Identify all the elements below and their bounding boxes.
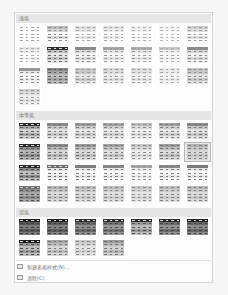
thumb-body-row: [159, 178, 180, 181]
table-style-medium-4[interactable]: [101, 122, 126, 140]
table-style-light-22[interactable]: [17, 88, 42, 106]
table-style-light-1[interactable]: [17, 25, 42, 43]
thumb-body-row: [75, 199, 96, 202]
table-style-dark-6[interactable]: [157, 218, 182, 236]
thumb-body-row: [47, 178, 68, 181]
thumb-body-row: [131, 178, 152, 181]
thumb-body-row: [19, 199, 40, 202]
table-style-light-15[interactable]: [17, 67, 42, 85]
table-style-dark-5[interactable]: [129, 218, 154, 236]
thumb-body-row: [75, 81, 96, 84]
table-style-medium-20[interactable]: [157, 164, 182, 182]
table-style-light-11[interactable]: [101, 46, 126, 64]
table-style-medium-28[interactable]: [185, 185, 210, 203]
table-style-medium-19[interactable]: [129, 164, 154, 182]
table-style-medium-3[interactable]: [73, 122, 98, 140]
thumb-body-row: [131, 39, 152, 42]
table-style-dark-1[interactable]: [17, 218, 42, 236]
table-style-medium-6[interactable]: [157, 122, 182, 140]
dark-styles-grid: [17, 218, 210, 257]
thumb-body-row: [187, 60, 208, 63]
table-style-medium-7[interactable]: [185, 122, 210, 140]
table-style-light-19[interactable]: [129, 67, 154, 85]
thumb-body-row: [19, 253, 40, 256]
thumb-body-row: [19, 157, 40, 160]
clear-menu-item[interactable]: 清除(C): [17, 272, 212, 282]
table-style-light-2[interactable]: [45, 25, 70, 43]
thumb-body-row: [19, 178, 40, 181]
table-style-light-17[interactable]: [73, 67, 98, 85]
table-style-medium-12[interactable]: [129, 143, 154, 161]
table-style-medium-10[interactable]: [73, 143, 98, 161]
thumb-body-row: [19, 136, 40, 139]
thumb-body-row: [75, 136, 96, 139]
table-style-medium-24[interactable]: [73, 185, 98, 203]
thumb-body-row: [103, 232, 124, 235]
table-style-medium-8[interactable]: [17, 143, 42, 161]
table-style-light-8[interactable]: [17, 46, 42, 64]
thumb-body-row: [187, 39, 208, 42]
table-style-medium-15[interactable]: [17, 164, 42, 182]
table-style-dark-2[interactable]: [45, 218, 70, 236]
thumb-body-row: [159, 39, 180, 42]
light-styles-grid: [17, 25, 210, 106]
thumb-body-row: [131, 199, 152, 202]
thumb-body-row: [47, 81, 68, 84]
thumb-body-row: [47, 157, 68, 160]
table-style-medium-22[interactable]: [17, 185, 42, 203]
table-style-light-18[interactable]: [101, 67, 126, 85]
table-style-dark-9[interactable]: [45, 239, 70, 257]
table-style-dark-4[interactable]: [101, 218, 126, 236]
table-style-dark-3[interactable]: [73, 218, 98, 236]
table-style-light-10[interactable]: [73, 46, 98, 64]
table-style-medium-18[interactable]: [101, 164, 126, 182]
table-style-light-16[interactable]: [45, 67, 70, 85]
thumb-body-row: [47, 199, 68, 202]
thumb-body-row: [131, 232, 152, 235]
table-style-light-9[interactable]: [45, 46, 70, 64]
table-style-medium-13[interactable]: [157, 143, 182, 161]
table-style-light-20[interactable]: [157, 67, 182, 85]
table-style-medium-17[interactable]: [73, 164, 98, 182]
section-header-light: 浅色: [16, 14, 211, 23]
thumb-body-row: [19, 81, 40, 84]
new-table-style-menu-item[interactable]: 新建表格样式(N)...: [17, 261, 212, 271]
table-style-light-5[interactable]: [129, 25, 154, 43]
table-style-light-4[interactable]: [101, 25, 126, 43]
thumb-body-row: [103, 157, 124, 160]
table-style-light-13[interactable]: [157, 46, 182, 64]
thumb-body-row: [47, 232, 68, 235]
table-style-medium-16[interactable]: [45, 164, 70, 182]
new-table-style-label: 新建表格样式(N)...: [27, 263, 69, 270]
thumb-body-row: [75, 253, 96, 256]
table-style-dark-10[interactable]: [73, 239, 98, 257]
table-style-light-12[interactable]: [129, 46, 154, 64]
table-style-light-3[interactable]: [73, 25, 98, 43]
table-style-medium-1[interactable]: [17, 122, 42, 140]
thumb-body-row: [103, 253, 124, 256]
table-style-medium-5[interactable]: [129, 122, 154, 140]
thumb-body-row: [19, 60, 40, 63]
thumb-body-row: [19, 232, 40, 235]
thumb-body-row: [159, 232, 180, 235]
table-style-medium-11[interactable]: [101, 143, 126, 161]
table-style-medium-14[interactable]: [185, 143, 210, 161]
thumb-body-row: [187, 178, 208, 181]
table-style-dark-8[interactable]: [17, 239, 42, 257]
thumb-body-row: [131, 60, 152, 63]
thumb-body-row: [103, 199, 124, 202]
table-style-dark-11[interactable]: [101, 239, 126, 257]
table-style-medium-21[interactable]: [185, 164, 210, 182]
table-style-light-21[interactable]: [185, 67, 210, 85]
table-style-light-14[interactable]: [185, 46, 210, 64]
thumb-body-row: [47, 60, 68, 63]
table-style-medium-2[interactable]: [45, 122, 70, 140]
table-style-medium-25[interactable]: [101, 185, 126, 203]
table-style-medium-23[interactable]: [45, 185, 70, 203]
table-style-dark-7[interactable]: [185, 218, 210, 236]
table-style-light-7[interactable]: [185, 25, 210, 43]
table-style-medium-9[interactable]: [45, 143, 70, 161]
table-style-medium-27[interactable]: [157, 185, 182, 203]
table-style-light-6[interactable]: [157, 25, 182, 43]
table-style-medium-26[interactable]: [129, 185, 154, 203]
